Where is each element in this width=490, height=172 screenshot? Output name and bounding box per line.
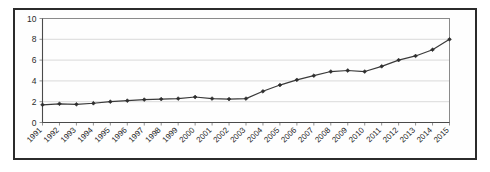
x-axis-tick-label: 2012 xyxy=(381,125,400,144)
data-point-marker xyxy=(227,97,231,101)
data-point-marker xyxy=(41,103,45,107)
y-axis-tick-label: 6 xyxy=(32,55,37,65)
x-axis-tick-label: 1994 xyxy=(76,125,95,144)
x-axis-tick-label: 2009 xyxy=(330,125,349,144)
x-axis-tick-label: 2007 xyxy=(296,125,315,144)
data-point-marker xyxy=(414,54,418,58)
data-point-marker xyxy=(329,70,333,74)
data-point-marker xyxy=(278,83,282,87)
data-point-marker xyxy=(159,97,163,101)
x-axis-tick-label: 2002 xyxy=(212,125,231,144)
x-axis-tick-label: 2008 xyxy=(313,125,332,144)
x-axis-tick-label: 1997 xyxy=(127,125,146,144)
data-point-marker xyxy=(397,58,401,62)
gridlines-group xyxy=(43,39,450,101)
x-axis-tick-label: 2000 xyxy=(178,125,197,144)
x-axis-tick-label: 2003 xyxy=(228,125,247,144)
series-line xyxy=(43,39,450,105)
data-point-marker xyxy=(142,98,146,102)
data-point-marker xyxy=(380,64,384,68)
x-axis-tick-label: 2013 xyxy=(398,125,417,144)
data-point-marker xyxy=(244,97,248,101)
data-point-marker xyxy=(75,102,79,106)
data-point-marker xyxy=(363,70,367,74)
x-axis-tick-label: 1999 xyxy=(161,125,180,144)
x-axis-tick-label: 2014 xyxy=(415,125,434,144)
x-axis-tick-label: 2010 xyxy=(347,125,366,144)
plot-area-border xyxy=(43,19,450,123)
x-axis-tick-label: 2004 xyxy=(245,125,264,144)
y-axis-tick-label: 4 xyxy=(32,76,37,86)
x-axis-tick-label: 2011 xyxy=(365,125,384,144)
x-axis-labels-group: 1991199219931994199519961997199819992000… xyxy=(25,125,451,144)
data-series-group xyxy=(41,37,452,106)
x-axis-tick-label: 2001 xyxy=(195,125,214,144)
x-axis-tick-label: 1996 xyxy=(110,125,129,144)
chart-svg: 0246810 19911992199319941995199619971998… xyxy=(0,0,490,172)
x-axis-tick-label: 1995 xyxy=(93,125,112,144)
x-axis-tick-label: 2006 xyxy=(279,125,298,144)
data-point-marker xyxy=(210,97,214,101)
data-point-marker xyxy=(312,74,316,78)
data-point-marker xyxy=(58,102,62,106)
x-axis-tick-label: 1991 xyxy=(25,125,44,144)
x-axis-tick-label: 1992 xyxy=(42,125,61,144)
x-axis-tick-label: 1998 xyxy=(144,125,163,144)
y-axis-tick-label: 8 xyxy=(32,34,37,44)
data-point-marker xyxy=(346,69,350,73)
chart-figure: 0246810 19911992199319941995199619971998… xyxy=(0,0,490,172)
y-axis-ticks-group: 0246810 xyxy=(27,14,42,128)
x-axis-tick-label: 1993 xyxy=(59,125,78,144)
data-point-marker xyxy=(176,97,180,101)
x-axis-tick-label: 2015 xyxy=(432,125,451,144)
data-point-marker xyxy=(261,89,265,93)
y-axis-tick-label: 10 xyxy=(27,14,37,24)
line-chart: 0246810 19911992199319941995199619971998… xyxy=(0,0,490,172)
y-axis-tick-label: 2 xyxy=(32,97,37,107)
data-point-marker xyxy=(108,100,112,104)
x-axis-tick-label: 2005 xyxy=(262,125,281,144)
data-point-marker xyxy=(193,95,197,99)
